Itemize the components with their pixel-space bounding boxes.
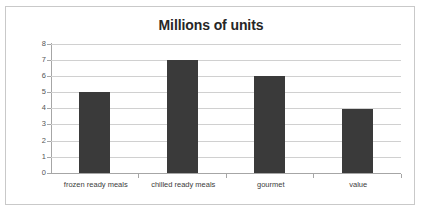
y-axis-label: 7	[16, 56, 46, 64]
y-axis-label: 0	[16, 169, 46, 177]
chart-title: Millions of units	[6, 17, 416, 33]
y-axis-label: 1	[16, 153, 46, 161]
bar	[167, 60, 198, 173]
x-axis-category-label: frozen ready meals	[52, 179, 140, 191]
y-axis-label: 6	[16, 72, 46, 80]
y-axis-label: 4	[16, 104, 46, 112]
x-axis-tick	[401, 174, 402, 178]
y-axis-label: 3	[16, 120, 46, 128]
x-axis-labels: frozen ready mealschilled ready mealsgou…	[52, 179, 402, 195]
x-axis-category-label: value	[315, 179, 403, 191]
y-axis-label: 8	[16, 40, 46, 48]
x-axis-tick	[313, 174, 314, 178]
x-axis-tick	[226, 174, 227, 178]
bar	[342, 109, 373, 174]
x-axis-category-label: chilled ready meals	[140, 179, 228, 191]
bar	[79, 92, 110, 173]
y-axis-label: 2	[16, 137, 46, 145]
bar-series	[51, 44, 401, 173]
bar	[254, 76, 285, 173]
x-axis-category-label: gourmet	[227, 179, 315, 191]
x-axis-tick	[138, 174, 139, 178]
plot-area	[51, 44, 401, 173]
chart-frame: Millions of units 8 7 6 5 4 3 2 1 0 froz…	[5, 6, 415, 205]
y-axis-label: 5	[16, 88, 46, 96]
